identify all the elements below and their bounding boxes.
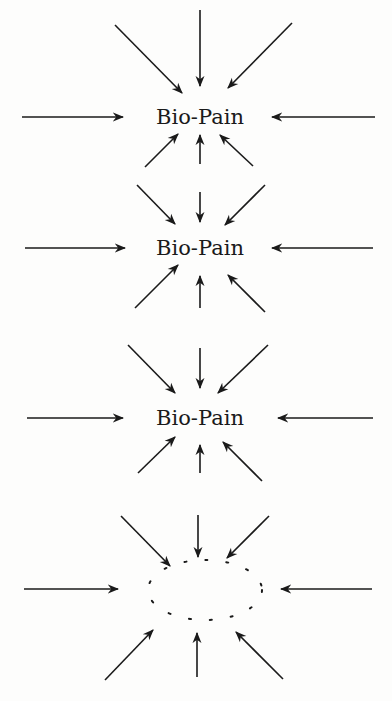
inward-arrow-icon (137, 185, 175, 224)
inward-arrow-icon (115, 25, 182, 93)
panel-bio-pain-1: Bio-Pain (22, 10, 375, 167)
inward-arrow-icon (223, 442, 262, 481)
dotted-ellipse-icon (148, 560, 262, 620)
inward-arrow-icon (218, 345, 268, 393)
inward-arrow-icon (105, 630, 153, 680)
inward-arrow-icon (138, 437, 175, 473)
bio-pain-label: Bio-Pain (156, 236, 244, 260)
panel-bio-pain-3: Bio-Pain (27, 345, 373, 481)
inward-arrow-icon (228, 275, 265, 312)
panel-bio-pain-2: Bio-Pain (25, 185, 373, 312)
inward-arrow-icon (220, 135, 253, 166)
inward-arrow-icon (227, 516, 269, 558)
inward-arrow-icon (145, 134, 178, 167)
inward-arrow-icon (228, 23, 292, 88)
bio-pain-label: Bio-Pain (156, 105, 244, 129)
bio-pain-label: Bio-Pain (156, 406, 244, 430)
inward-arrow-icon (135, 265, 178, 308)
inward-arrow-icon (225, 185, 265, 225)
inward-arrow-icon (236, 632, 283, 679)
panel-dissolved (24, 515, 372, 680)
bio-pain-convergence-diagram: Bio-Pain Bio-Pain Bio-Pain (0, 0, 392, 701)
inward-arrow-icon (121, 516, 170, 566)
inward-arrow-icon (128, 345, 175, 393)
